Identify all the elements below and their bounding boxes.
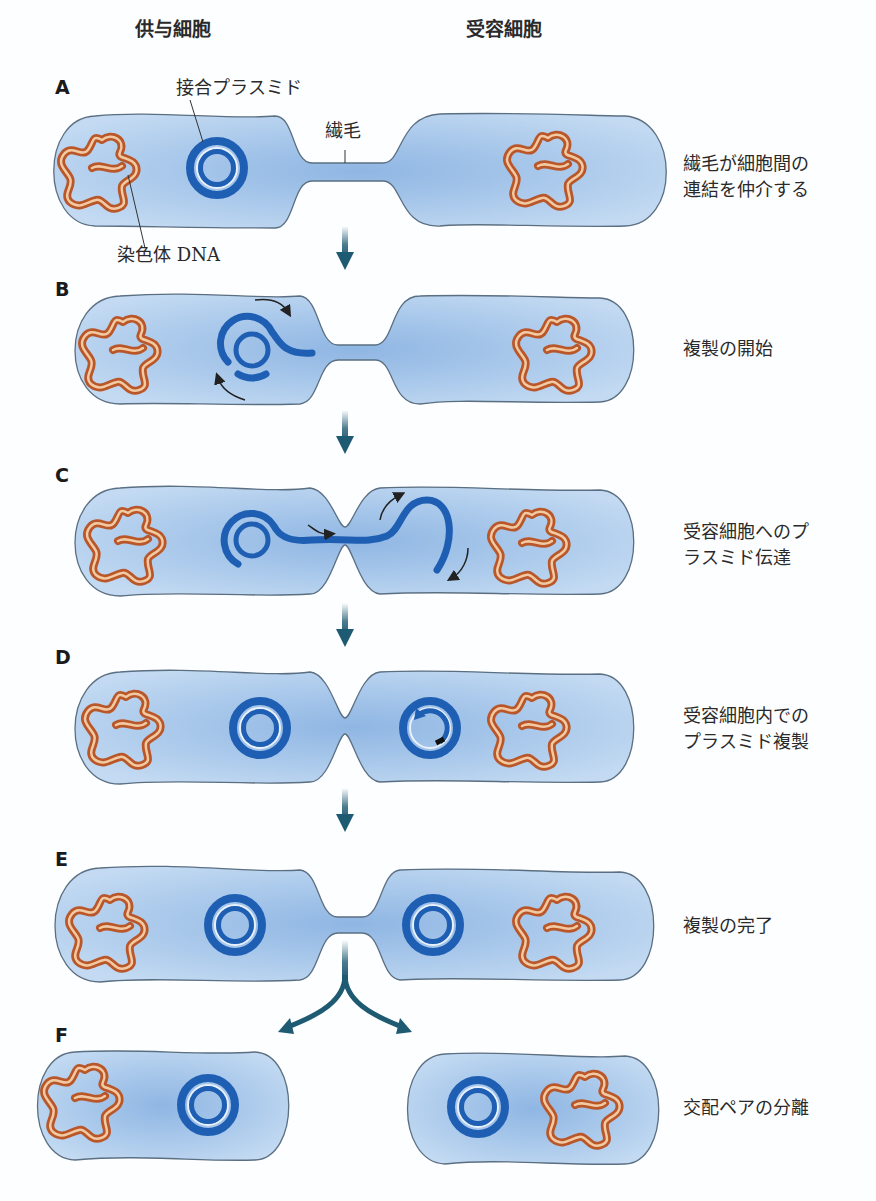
step-letter-f: F xyxy=(55,1024,68,1046)
step-letter-b: B xyxy=(55,278,69,300)
caption-e: 複製の完了 xyxy=(683,913,773,939)
step-e-graphic xyxy=(55,866,654,1034)
caption-a-line1: 繊毛が細胞間の xyxy=(683,151,809,177)
step-letter-c: C xyxy=(55,464,69,486)
caption-d-line1: 受容細胞内での xyxy=(683,703,809,729)
caption-b-line1: 複製の開始 xyxy=(683,336,773,362)
caption-c-line1: 受容細胞へのプ xyxy=(683,519,809,545)
caption-a-line2: 連結を仲介する xyxy=(683,177,809,203)
step-d-graphic xyxy=(75,670,634,832)
step-c-graphic xyxy=(75,486,634,647)
step-f-graphic xyxy=(38,1051,659,1164)
pilus-label: 繊毛 xyxy=(325,116,361,142)
caption-b: 複製の開始 xyxy=(683,336,773,362)
caption-d: 受容細胞内での プラスミド複製 xyxy=(683,703,809,755)
caption-a: 繊毛が細胞間の 連結を仲介する xyxy=(683,151,809,203)
chromosome-label: 染色体 DNA xyxy=(117,240,220,266)
caption-f-line1: 交配ペアの分離 xyxy=(683,1095,809,1121)
caption-c: 受容細胞へのプ ラスミド伝達 xyxy=(683,519,809,571)
caption-d-line2: プラスミド複製 xyxy=(683,729,809,755)
caption-f: 交配ペアの分離 xyxy=(683,1095,809,1121)
caption-c-line2: ラスミド伝達 xyxy=(683,545,809,571)
plasmid-label: 接合プラスミド xyxy=(176,73,302,99)
step-letter-e: E xyxy=(55,848,68,870)
step-letter-a: A xyxy=(55,76,70,98)
recipient-cell-header: 受容細胞 xyxy=(466,14,542,41)
step-b-graphic xyxy=(75,294,634,454)
step-letter-d: D xyxy=(55,646,71,668)
caption-e-line1: 複製の完了 xyxy=(683,913,773,939)
donor-cell-header: 供与細胞 xyxy=(135,14,211,41)
